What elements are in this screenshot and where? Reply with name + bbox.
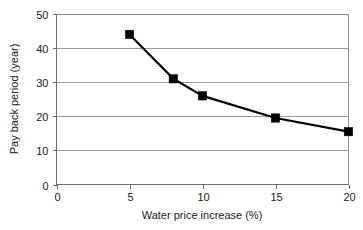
y-tick-label-20: 20 — [36, 111, 48, 123]
data-point-10 — [198, 92, 206, 100]
data-point-15 — [271, 114, 279, 122]
data-point-5 — [125, 30, 133, 38]
x-tick-label-5: 5 — [127, 191, 133, 203]
payback-period-line-chart: 01020304050 05101520 Water price increas… — [0, 0, 363, 230]
x-axis-title: Water price increase (%) — [142, 209, 263, 221]
chart-figure: 01020304050 05101520 Water price increas… — [0, 0, 363, 230]
y-tick-label-40: 40 — [36, 43, 48, 55]
x-tick-label-15: 15 — [270, 191, 282, 203]
y-axis-title: Pay back period (year) — [8, 44, 20, 155]
y-tick-label-0: 0 — [42, 180, 48, 192]
data-point-20 — [344, 127, 352, 135]
y-tick-label-30: 30 — [36, 77, 48, 89]
data-point-8 — [169, 75, 177, 83]
y-tick-label-10: 10 — [36, 145, 48, 157]
y-tick-label-50: 50 — [36, 9, 48, 21]
x-tick-label-20: 20 — [343, 191, 355, 203]
x-tick-label-0: 0 — [54, 191, 60, 203]
x-tick-label-10: 10 — [197, 191, 209, 203]
